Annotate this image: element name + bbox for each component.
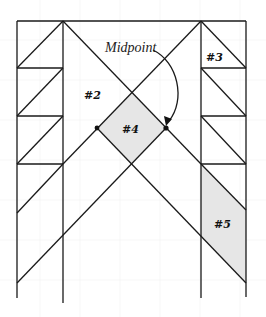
right-midpoint-dot — [163, 125, 168, 130]
patch-3-label: #3 — [206, 51, 223, 64]
midpoint-arrow-arc — [153, 50, 178, 121]
patch-5-label: #5 — [214, 218, 231, 231]
quilt-block-diagram: Midpoint #2 #3 #4 #5 — [0, 0, 266, 317]
left-midpoint-dot — [95, 126, 100, 131]
patch-4-label: #4 — [122, 123, 139, 136]
midpoint-label: Midpoint — [104, 40, 157, 55]
patch-2-label: #2 — [84, 89, 101, 102]
